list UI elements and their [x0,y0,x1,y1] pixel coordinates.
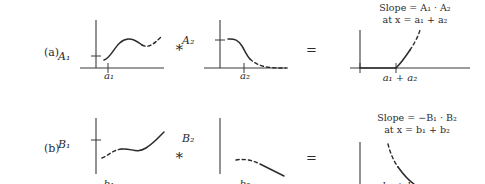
y-axis-label-a1: A₁ [58,50,70,63]
x-tick-label-b1: b₁ [98,178,120,184]
panel-b-result [348,140,472,184]
x-tick-label-a1: a₁ [98,70,120,81]
annotation-a: Slope = A₁ · A₂ at x = a₁ + a₂ [352,2,478,26]
panel-a-second-operand [202,18,290,76]
x-tick-label-a2: a₂ [234,70,256,81]
annotation-b-line2: at x = b₁ + b₂ [352,124,482,136]
annotation-a-line1: Slope = A₁ · A₂ [352,2,478,14]
y-axis-label-a2: A₂ [182,34,194,47]
panel-b-first-operand [78,114,166,176]
annotation-b: Slope = −B₁ · B₂ at x = b₁ + b₂ [352,112,482,136]
panel-a-first-operand [78,18,166,76]
row-label-a: (a) [44,46,59,59]
y-axis-label-b2: B₂ [182,132,195,145]
operator-convolve-b: ∗ [174,148,184,163]
x-tick-label-b2: b₂ [234,178,256,184]
annotation-a-line2: at x = a₁ + a₂ [352,14,478,26]
convolution-figure: (a) A₁ a₁ ∗ [0,0,485,184]
operator-equals-b: = [306,150,317,165]
figure-row-b: (b) B₁ b₁ ∗ B₂ b₂ = Slop [0,92,485,184]
panel-a-result [348,26,472,76]
figure-row-a: (a) A₁ a₁ ∗ [0,0,485,92]
annotation-b-line1: Slope = −B₁ · B₂ [352,112,482,124]
operator-equals-a: = [306,42,317,57]
x-tick-label-b-sum: b₁ + b₂ [370,180,430,184]
panel-b-second-operand [202,114,290,176]
y-axis-label-b1: B₁ [58,138,71,151]
x-tick-label-a-sum: a₁ + a₂ [370,72,430,83]
